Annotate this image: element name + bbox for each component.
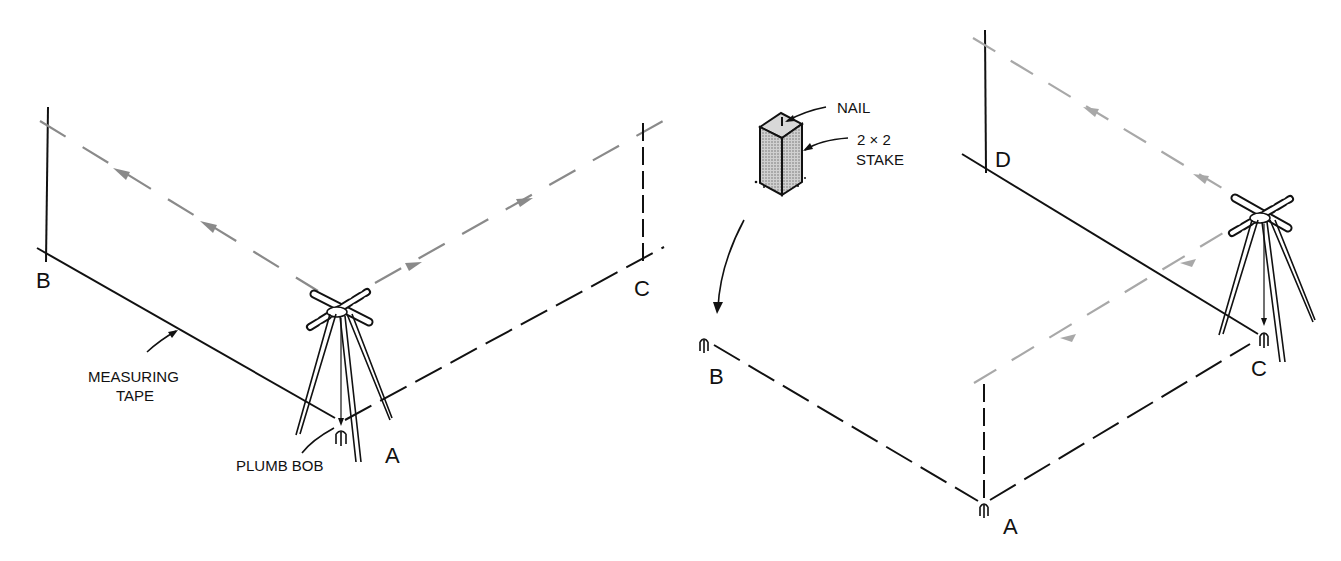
pole-d	[985, 30, 986, 173]
sight-line-to-b	[40, 121, 318, 291]
label-measuring: MEASURING	[88, 368, 179, 385]
left-panel: B C A MEASURING TAPE PLUMB BOB	[36, 107, 670, 474]
sight-arrow-icon	[1083, 107, 1099, 117]
label-nail: NAIL	[837, 99, 870, 116]
sight-arrow-icon	[113, 168, 130, 180]
label-point-b: B	[709, 364, 724, 389]
stake-to-b-arrow	[718, 220, 744, 308]
ground-line-a-c	[990, 344, 1250, 500]
measuring-tape-line	[37, 248, 335, 418]
sight-arrow-icon	[1180, 259, 1196, 267]
sight-arrow-icon	[405, 262, 422, 271]
label-point-b: B	[36, 268, 51, 293]
label-point-d: D	[995, 147, 1011, 172]
label-2x2: 2 × 2	[857, 131, 891, 148]
transit-tripod	[1219, 198, 1315, 362]
sight-arrow-icon	[200, 221, 217, 233]
pole-b	[46, 107, 48, 262]
surveying-diagram: B C A MEASURING TAPE PLUMB BOB NAIL 2 × …	[0, 0, 1341, 561]
label-tape: TAPE	[116, 387, 154, 404]
label-point-c: C	[634, 276, 650, 301]
sight-arrow-icon	[516, 198, 533, 207]
label-point-a: A	[385, 443, 400, 468]
plumb-bob-pointer	[302, 428, 334, 453]
ground-line-d-c	[962, 154, 1258, 334]
stake-illustration	[755, 113, 806, 195]
label-plumb-bob: PLUMB BOB	[236, 457, 324, 474]
label-point-c: C	[1251, 356, 1267, 381]
sight-arrow-icon	[1193, 174, 1209, 184]
ground-line-b-a	[714, 345, 978, 501]
sight-line-to-a	[974, 230, 1228, 383]
transit-tripod	[296, 292, 392, 462]
stake-b	[700, 339, 708, 353]
stake-a	[980, 504, 988, 518]
label-stake: STAKE	[856, 151, 904, 168]
label-point-a: A	[1003, 514, 1018, 539]
right-panel: NAIL 2 × 2 STAKE	[700, 30, 1315, 539]
sight-arrow-icon	[1060, 334, 1076, 342]
